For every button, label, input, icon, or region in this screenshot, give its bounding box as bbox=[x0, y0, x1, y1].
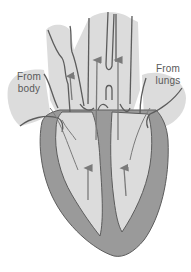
label-from-lungs-line1: From bbox=[148, 63, 188, 75]
label-from-lungs-line2: lungs bbox=[148, 75, 188, 87]
heart-diagram bbox=[0, 0, 191, 272]
label-from-body-line2: body bbox=[9, 83, 49, 95]
label-from-lungs: From lungs bbox=[148, 63, 188, 87]
label-from-body: From body bbox=[9, 71, 49, 95]
label-from-body-line1: From bbox=[9, 71, 49, 83]
